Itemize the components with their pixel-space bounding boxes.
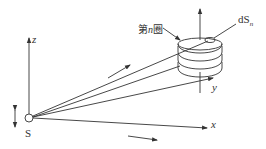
area-element-leader — [214, 24, 236, 38]
coil-turn-suffix: 圈 — [153, 24, 163, 35]
x-axis — [33, 118, 207, 128]
coil-turn-prefix: 第 — [138, 24, 148, 35]
turn-pointer-arrow — [163, 28, 180, 40]
source-point — [25, 114, 33, 122]
axis-x-label: x — [211, 119, 216, 130]
axis-z-label: z — [32, 34, 36, 45]
diagram-graphics — [0, 0, 266, 149]
diagram-canvas: z x y S 第n圈 dSn — [0, 0, 266, 149]
motion-arrow — [128, 136, 157, 140]
area-element-subscript: n — [250, 20, 254, 28]
ray-to-area-element — [33, 41, 208, 116]
area-element-label: dSn — [238, 14, 253, 28]
axis-y-label: y — [212, 82, 217, 93]
coil-turn-label: 第n圈 — [138, 25, 163, 35]
ray-lower — [33, 66, 180, 117]
y-axis — [33, 78, 213, 117]
area-element-main: dS — [238, 13, 250, 25]
coil — [178, 38, 222, 77]
source-label: S — [25, 128, 31, 139]
